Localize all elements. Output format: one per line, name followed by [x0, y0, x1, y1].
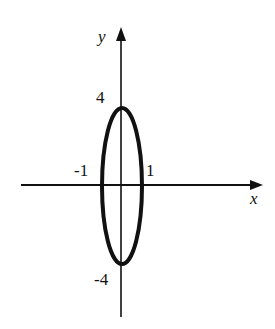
y-axis-arrow-icon [116, 27, 126, 41]
y-tick-neg4: -4 [94, 270, 109, 289]
ellipse-diagram: y x 4 -4 -1 1 [0, 0, 275, 329]
x-tick-1: 1 [146, 161, 155, 180]
x-axis-label: x [249, 189, 258, 208]
y-tick-4: 4 [96, 88, 105, 107]
y-axis-label: y [96, 27, 106, 46]
x-tick-neg1: -1 [74, 161, 88, 180]
